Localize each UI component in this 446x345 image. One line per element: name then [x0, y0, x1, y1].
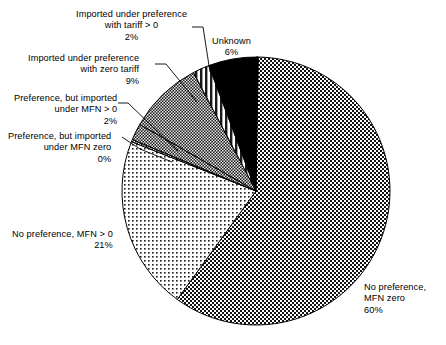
slice-label-line: 2% — [76, 32, 187, 43]
slice-label-line: No preference, — [364, 282, 426, 293]
slice-label-line: MFN zero — [364, 293, 426, 304]
slice-label-line: 0% — [8, 154, 111, 165]
slice-label-line: Unknown — [212, 36, 251, 47]
slice-label: No preference,MFN zero60% — [364, 282, 426, 316]
slice-label-line: 9% — [28, 76, 139, 87]
slice-label-line: with tariff > 0 — [76, 20, 187, 31]
slice-label-line: 21% — [12, 240, 113, 251]
slice-label: Imported under preferencewith tariff > 0… — [76, 9, 187, 43]
slice-label-line: Preference, but imported — [14, 93, 117, 104]
slice-label: Unknown6% — [212, 36, 251, 59]
pie-slices — [122, 57, 390, 325]
slice-label-line: Imported under preference — [28, 53, 139, 64]
slice-label-line: 6% — [212, 47, 251, 58]
slice-label-line: under MFN > 0 — [14, 104, 117, 115]
slice-label-line: No preference, MFN > 0 — [12, 229, 113, 240]
slice-label-line: Imported under preference — [76, 9, 187, 20]
slice-label: Imported under preferencewith zero tarif… — [28, 53, 139, 87]
slice-label-line: with zero tariff — [28, 64, 139, 75]
slice-label: No preference, MFN > 021% — [12, 229, 113, 252]
slice-label-line: under MFN zero — [8, 142, 111, 153]
slice-label: Preference, but importedunder MFN zero0% — [8, 131, 111, 165]
slice-label: Preference, but importedunder MFN > 02% — [14, 93, 117, 127]
slice-label-line: 60% — [364, 305, 426, 316]
pie-chart: No preference,MFN zero60%No preference, … — [0, 0, 446, 345]
slice-label-line: 2% — [14, 116, 117, 127]
leader-line — [192, 27, 210, 72]
slice-label-line: Preference, but imported — [8, 131, 111, 142]
